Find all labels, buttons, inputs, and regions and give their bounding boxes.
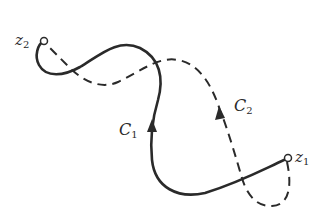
arrow-c1-icon [147, 119, 157, 132]
label-z1: z1 [295, 150, 309, 167]
label-c2: C2 [234, 98, 253, 116]
curve-c2 [47, 45, 289, 206]
contour-diagram: z2 z1 C1 C2 [0, 0, 322, 221]
arrow-c2-icon [215, 106, 225, 120]
point-z2-marker [41, 38, 48, 45]
label-c2-base: C [234, 96, 246, 115]
point-z1-marker [285, 155, 292, 162]
label-z1-base: z [295, 148, 303, 166]
label-c1-sub: 1 [131, 129, 137, 140]
label-z2: z2 [15, 33, 29, 50]
curve-c1 [37, 42, 284, 195]
label-z2-sub: 2 [23, 39, 29, 50]
label-c1: C1 [119, 122, 138, 140]
label-c2-sub: 2 [246, 105, 252, 116]
label-z2-base: z [15, 31, 23, 49]
label-c1-base: C [119, 120, 131, 139]
diagram-graphic [0, 0, 322, 221]
label-z1-sub: 1 [303, 156, 309, 167]
